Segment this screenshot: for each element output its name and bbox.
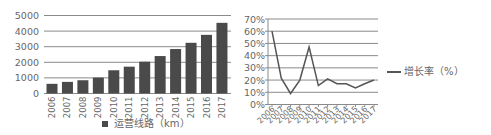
bar-legend-label: 运营线路（km） <box>114 118 190 129</box>
growth-rate-line-chart: 0%10%20%30%40%50%60%70%20062007200820092… <box>240 0 491 135</box>
bar <box>201 35 212 94</box>
legend-line-icon <box>387 71 401 73</box>
bar <box>77 80 88 93</box>
y-tick-label: 2000 <box>15 57 39 68</box>
operating-lines-bar-chart: 0100020003000400050002006200720082009201… <box>0 0 240 135</box>
bar <box>93 78 104 94</box>
y-tick-label: 0% <box>250 99 265 110</box>
x-tick-label: 2016 <box>202 97 212 119</box>
line-chart-legend: 增长率（%） <box>387 63 464 78</box>
bar <box>62 82 73 94</box>
bar <box>186 43 197 94</box>
y-tick-label: 60% <box>244 26 265 37</box>
y-tick-label: 20% <box>244 75 265 86</box>
bar <box>139 62 150 94</box>
x-tick-label: 2007 <box>62 97 72 119</box>
y-tick-label: 40% <box>244 50 265 61</box>
bar <box>170 49 181 93</box>
bar <box>108 70 119 93</box>
y-tick-label: 50% <box>244 38 265 49</box>
y-tick-label: 10% <box>244 87 265 98</box>
y-tick-label: 5000 <box>15 10 39 21</box>
y-tick-label: 0 <box>33 88 39 99</box>
y-tick-label: 30% <box>244 62 265 73</box>
bar-chart-legend: 运营线路（km） <box>102 115 190 130</box>
line-legend-label: 增长率（%） <box>404 66 464 77</box>
x-tick-label: 2006 <box>47 97 57 119</box>
y-tick-label: 70% <box>244 14 265 25</box>
x-tick-label: 2008 <box>78 97 88 119</box>
bar <box>124 67 135 94</box>
y-tick-label: 3000 <box>15 41 39 52</box>
bar <box>47 84 58 94</box>
x-tick-label: 2017 <box>217 97 227 119</box>
bar <box>216 23 227 94</box>
bar <box>155 56 166 93</box>
growth-line <box>272 31 374 93</box>
y-tick-label: 4000 <box>15 26 39 37</box>
legend-swatch-icon <box>102 121 108 127</box>
y-tick-label: 1000 <box>15 72 39 83</box>
